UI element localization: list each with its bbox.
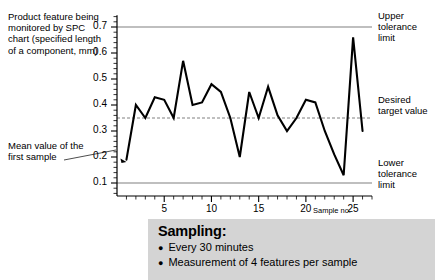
sampling-info-box: Sampling: ●Every 30 minutes●Measurement … <box>148 219 435 280</box>
x-axis-tick-label: 5 <box>154 203 174 214</box>
y-axis-tick-label: 0.7 <box>83 20 107 31</box>
spc-chart-figure: Product feature being monitored by SPC c… <box>0 0 435 280</box>
y-axis-tick-label: 0.6 <box>83 46 107 57</box>
y-axis-tick-label: 0.4 <box>83 98 107 109</box>
mean-value-caption: Mean value of the first sample <box>8 140 94 162</box>
y-axis-tick-label: 0.2 <box>83 150 107 161</box>
data-series-group <box>126 37 362 175</box>
sampling-item-list: ●Every 30 minutes●Measurement of 4 featu… <box>158 240 435 270</box>
bullet-icon: ● <box>158 256 163 270</box>
sampling-title: Sampling: <box>158 223 435 240</box>
y-axis-tick-label: 0.1 <box>83 176 107 187</box>
sample-mean-line <box>126 37 362 175</box>
sampling-item-label: Measurement of 4 features per sample <box>168 255 357 269</box>
reference-line-group <box>117 27 372 183</box>
y-axis-tick-label: 0.5 <box>83 72 107 83</box>
x-axis-title: Sample no. <box>313 206 351 215</box>
x-axis-tick-label: 15 <box>249 203 269 214</box>
x-axis-tick-label: 10 <box>201 203 221 214</box>
y-axis-tick-label: 0.3 <box>83 124 107 135</box>
sampling-list-item: ●Every 30 minutes <box>158 240 435 255</box>
lower-tolerance-limit-caption: Lower tolerance limit <box>378 157 434 191</box>
desired-target-value-caption: Desired target value <box>378 94 434 116</box>
bullet-icon: ● <box>158 241 163 255</box>
sampling-item-label: Every 30 minutes <box>168 240 253 254</box>
upper-tolerance-limit-caption: Upper tolerance limit <box>378 10 434 44</box>
sampling-list-item: ●Measurement of 4 features per sample <box>158 255 435 270</box>
